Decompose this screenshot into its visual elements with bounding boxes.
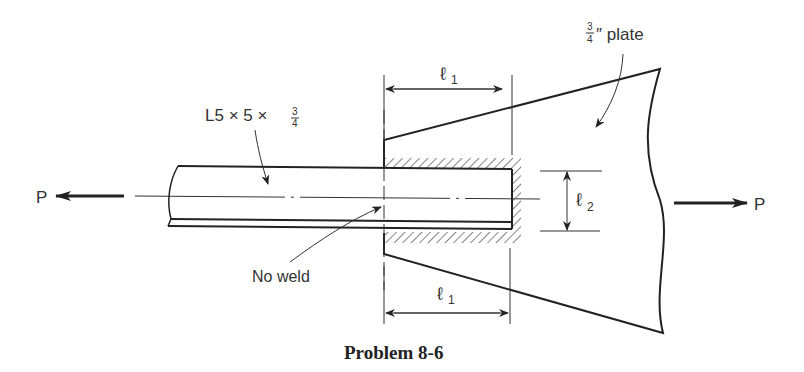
l2-symbol: ℓ — [576, 190, 582, 210]
angle-frac-num: 3 — [292, 106, 298, 117]
dim-l1-top: ℓ 1 — [384, 64, 512, 155]
l2-sub: 2 — [587, 200, 594, 214]
angle-frac-den: 4 — [292, 118, 298, 129]
plate-label: 3 4 ″ plate — [586, 21, 644, 127]
plate-label-text: ″ plate — [596, 25, 644, 44]
l1-top-sub: 1 — [451, 73, 458, 87]
angle-label-text: L5 × 5 × — [205, 106, 267, 125]
problem-diagram: ℓ 1 ℓ 1 ℓ 2 P P L5 × 5 × 3 4 3 — [0, 0, 804, 372]
no-weld-label: No weld — [252, 207, 381, 285]
no-weld-text: No weld — [252, 268, 310, 285]
l1-bottom-sub: 1 — [448, 293, 455, 307]
dim-l2: ℓ 2 — [540, 171, 602, 231]
l1-bottom-symbol: ℓ — [437, 284, 443, 304]
weld-hatch — [384, 158, 521, 243]
diagram-svg: ℓ 1 ℓ 1 ℓ 2 P P L5 × 5 × 3 4 3 — [0, 0, 804, 372]
load-right: P — [674, 195, 765, 214]
load-right-label: P — [754, 195, 765, 214]
l1-top-symbol: ℓ — [440, 64, 446, 84]
plate-frac-num: 3 — [587, 21, 593, 32]
figure-caption: Problem 8-6 — [344, 342, 443, 363]
load-left: P — [36, 188, 124, 207]
load-left-label: P — [36, 188, 47, 207]
gusset-plate — [384, 69, 664, 333]
centerline — [135, 196, 540, 199]
angle-label: L5 × 5 × 3 4 — [205, 106, 299, 184]
plate-frac-den: 4 — [587, 34, 593, 45]
